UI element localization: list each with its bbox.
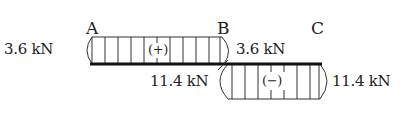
value-bc-left: 11.4 kN: [150, 74, 208, 89]
value-ab-left: 3.6 kN: [4, 42, 53, 57]
shear-force-diagram: A B C 3.6 kN 3.6 kN 11.4 kN 11.4 kN (+) …: [0, 0, 410, 115]
value-ab-right: 3.6 kN: [236, 42, 285, 57]
diagram-canvas: [0, 0, 410, 115]
point-label-c: C: [311, 20, 324, 37]
sign-negative: (−): [261, 74, 283, 87]
sign-positive: (+): [147, 43, 169, 56]
value-bc-right: 11.4 kN: [332, 74, 390, 89]
point-label-b: B: [217, 20, 230, 37]
point-label-a: A: [86, 20, 98, 37]
